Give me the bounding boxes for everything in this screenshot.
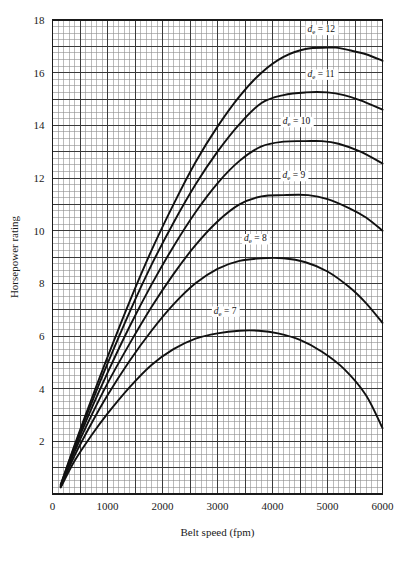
y-tick-label: 14 [34,119,46,131]
x-axis-title: Belt speed (fpm) [181,526,255,539]
x-tick-label: 1000 [97,500,120,512]
y-axis-title: Horsepower rating [8,215,20,298]
curve-label-text: de = 9 [283,170,306,181]
y-tick-label: 8 [39,277,45,289]
curve-label-de-9: de = 9 [281,170,309,181]
x-tick-label: 2000 [152,500,175,512]
curve-label-de-12: de = 12 [306,24,339,35]
curve-label-text: de = 11 [308,69,335,80]
y-tick-label: 6 [39,330,45,342]
curve-label-text: de = 12 [308,24,336,35]
x-tick-label: 0 [50,500,56,512]
y-tick-label: 2 [39,435,45,447]
curve-label-de-7: de = 7 [212,306,240,317]
chart-canvas: de = 12de = 11de = 10de = 9de = 8de = 7 … [0,0,403,565]
y-tick-label: 16 [34,67,46,79]
curve-label-de-11: de = 11 [306,69,339,80]
curve-label-de-10: de = 10 [281,116,314,127]
curve-label-de-8: de = 8 [242,233,270,244]
curve-label-text: de = 7 [214,306,237,317]
y-tick-label: 12 [34,172,45,184]
y-tick-label: 4 [39,383,45,395]
y-tick-label: 10 [34,225,46,237]
x-tick-label: 5000 [317,500,340,512]
chart-figure: de = 12de = 11de = 10de = 9de = 8de = 7 … [0,0,403,565]
curve-label-text: de = 10 [283,116,311,127]
x-tick-label: 6000 [372,500,395,512]
x-tick-label: 4000 [262,500,285,512]
y-tick-label: 18 [34,14,46,26]
x-tick-label: 3000 [207,500,230,512]
curve-label-text: de = 8 [244,233,267,244]
